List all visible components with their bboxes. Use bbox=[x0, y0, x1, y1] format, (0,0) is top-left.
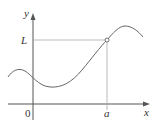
function-curve bbox=[8, 26, 143, 87]
L-label: L bbox=[20, 34, 27, 46]
origin-label: 0 bbox=[25, 107, 31, 119]
x-axis-label: x bbox=[143, 106, 149, 118]
limit-diagram: y x 0 a L bbox=[0, 0, 160, 123]
limit-point-open-circle bbox=[105, 38, 109, 42]
a-label: a bbox=[104, 107, 110, 119]
y-axis-label: y bbox=[23, 7, 29, 19]
y-axis-arrow-icon bbox=[31, 13, 36, 20]
